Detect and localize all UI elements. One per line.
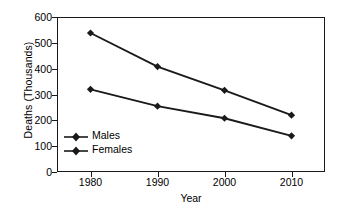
legend-item-females: Females [63, 142, 159, 156]
y-axis-tick-mark [52, 69, 57, 70]
y-axis-tick-mark [52, 95, 57, 96]
data-point-marker [221, 115, 228, 122]
chart-legend: Males Females [63, 128, 159, 156]
x-axis-tick-mark [158, 172, 159, 177]
legend-marker-icon [63, 129, 89, 141]
data-point-marker [288, 112, 295, 119]
series-males [87, 29, 295, 118]
legend-marker-icon [63, 143, 89, 155]
data-series-layer [0, 0, 340, 216]
y-axis-tick-mark [52, 43, 57, 44]
line-chart: Deaths (Thousands) 0100200300400500600 1… [0, 0, 340, 216]
x-axis-tick-mark [292, 172, 293, 177]
y-axis-tick-mark [52, 172, 57, 173]
x-axis-tick-mark [225, 172, 226, 177]
series-line [91, 33, 292, 115]
y-axis-tick-mark [52, 146, 57, 147]
y-axis-tick-mark [52, 120, 57, 121]
legend-label-females: Females [89, 143, 132, 155]
data-point-marker [221, 87, 228, 94]
y-axis-tick-mark [52, 17, 57, 18]
data-point-marker [288, 132, 295, 139]
legend-item-males: Males [63, 128, 159, 142]
legend-label-males: Males [89, 129, 120, 141]
x-axis-tick-mark [91, 172, 92, 177]
data-point-marker [154, 103, 161, 110]
data-point-marker [154, 63, 161, 70]
data-point-marker [87, 29, 94, 36]
data-point-marker [87, 86, 94, 93]
